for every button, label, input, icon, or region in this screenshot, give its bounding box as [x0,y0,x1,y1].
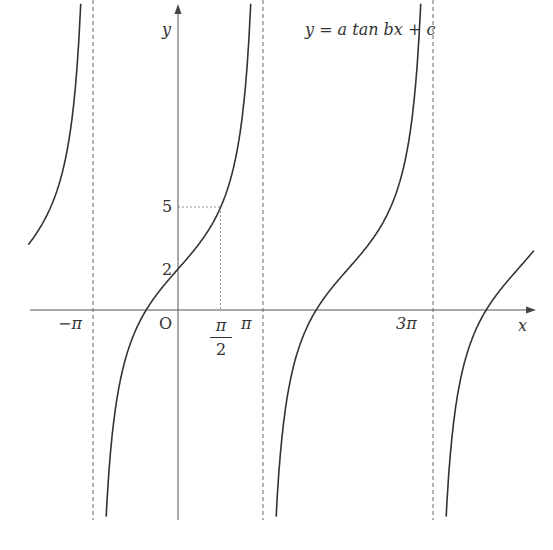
equation-label: y = a tan bx + c [305,22,435,38]
origin-label: O [159,316,172,332]
tan-branch [28,4,80,245]
half-pi-numerator: π [210,316,232,335]
half-pi-denominator: 2 [210,340,232,359]
plot-area [0,0,553,550]
tan-curves [28,4,533,517]
tick-half-pi: π 2 [210,316,232,359]
x-axis-arrow-icon [526,307,536,314]
y-axis-arrow-icon [175,4,182,14]
tick-3pi: 3π [396,316,417,332]
y-axis-label: y [162,22,171,38]
tick-y2: 2 [162,262,172,278]
tick-neg-pi: −π [58,316,82,332]
tan-branch [276,4,421,517]
tan-branch [446,251,534,517]
chart: y = a tan bx + c y x O −π π 3π π 2 5 2 [0,0,553,550]
x-axis-label: x [518,318,527,334]
fraction-bar [210,337,232,338]
tick-pi: π [241,316,252,332]
tick-y5: 5 [162,199,172,215]
